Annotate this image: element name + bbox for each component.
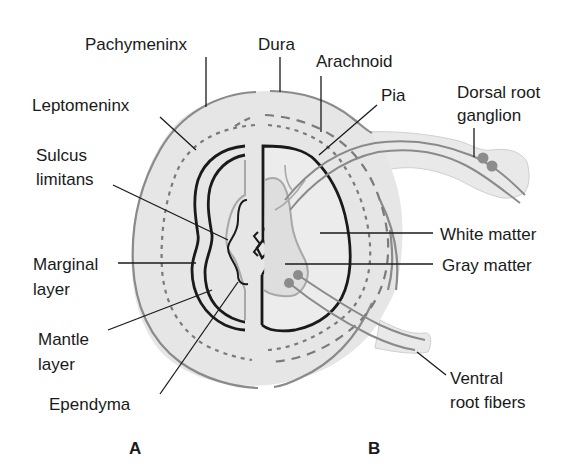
label-white-matter: White matter [440,225,537,244]
panel-label-b: B [368,439,380,458]
spinal-cord-meninges-diagram: Pachymeninx Dura Arachnoid Pia Leptomeni… [0,0,584,475]
label-pachymeninx: Pachymeninx [85,35,188,54]
label-gray-matter: Gray matter [442,256,532,275]
label-mantle-layer-line1: Mantle [38,330,89,349]
label-marginal-layer-line1: Marginal [33,255,98,274]
label-dorsal-root-ganglion-line2: ganglion [457,106,521,125]
dorsal-root-ganglion-cell-1 [478,153,489,164]
label-ependyma: Ependyma [49,395,131,414]
label-mantle-layer-line2: layer [38,355,75,374]
label-dorsal-root-ganglion-line1: Dorsal root [457,83,540,102]
label-ventral-root-fibers-line2: root fibers [450,393,526,412]
dorsal-root-ganglion-cell-2 [487,161,498,172]
label-arachnoid: Arachnoid [316,52,393,71]
label-ventral-root-fibers-line1: Ventral [450,369,503,388]
label-dura: Dura [258,35,295,54]
label-pia: Pia [381,86,406,105]
label-sulcus-limitans-line2: limitans [36,170,94,189]
label-marginal-layer-line2: layer [33,280,70,299]
panel-label-a: A [129,439,141,458]
leader-ventral-root-fibers [417,352,446,375]
label-leptomeninx: Leptomeninx [32,96,130,115]
label-sulcus-limitans-line1: Sulcus [36,146,87,165]
